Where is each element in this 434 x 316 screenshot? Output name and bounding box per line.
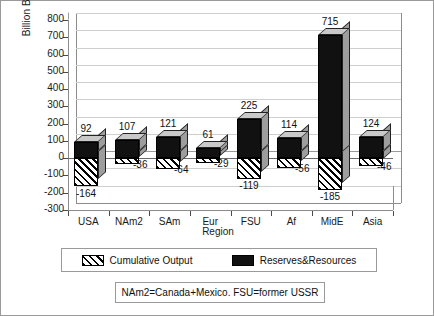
plot-back-right-edge bbox=[401, 13, 402, 203]
bar-front-positive-NAm2 bbox=[115, 140, 139, 158]
legend-item-reserves-resources: Reserves&Resources bbox=[232, 255, 357, 266]
plot-floor-back-edge bbox=[76, 203, 401, 204]
legend-swatch-hatched-icon bbox=[82, 255, 104, 266]
legend-swatch-solid-icon bbox=[232, 255, 254, 266]
chart-footnote: NAm2=Canada+Mexico. FSU=former USSR bbox=[115, 282, 325, 303]
chart-legend: Cumulative Output Reserves&Resources bbox=[61, 248, 377, 272]
y-tick-label--300: -300 bbox=[21, 205, 64, 213]
y-tick-label-400: 400 bbox=[21, 84, 64, 92]
gridline-400 bbox=[76, 82, 401, 83]
bar-front-positive-Af bbox=[277, 138, 301, 158]
bar-front-positive-Asia bbox=[359, 137, 383, 158]
bar-value-label-negative-FSU: -119 bbox=[225, 180, 273, 191]
y-tick-label-300: 300 bbox=[21, 101, 64, 109]
y-tick-label-100: 100 bbox=[21, 136, 64, 144]
y-axis-line bbox=[68, 20, 69, 210]
bar-front-positive-SAm bbox=[156, 137, 180, 158]
bar-value-label-negative-Asia: -46 bbox=[377, 161, 415, 172]
legend-label: Cumulative Output bbox=[110, 255, 193, 266]
bar-value-label-negative-USA: -164 bbox=[62, 188, 110, 199]
gridline-700 bbox=[76, 30, 401, 31]
y-tick-label-0: 0 bbox=[21, 153, 64, 161]
bar-front-positive-Eur bbox=[196, 148, 220, 159]
bar-value-label-negative-SAm: -64 bbox=[174, 164, 212, 175]
bar-value-label-positive-FSU: 225 bbox=[225, 100, 273, 111]
gridline-800 bbox=[76, 13, 401, 14]
bar-side-positive-MidE bbox=[342, 21, 350, 151]
bar-value-label-positive-MidE: 715 bbox=[306, 16, 354, 27]
y-tick-label-500: 500 bbox=[21, 67, 64, 75]
bar-front-negative-USA bbox=[74, 158, 98, 186]
plot-front-right-edge bbox=[393, 186, 394, 210]
legend-item-cumulative-output: Cumulative Output bbox=[82, 255, 193, 266]
legend-label: Reserves&Resources bbox=[260, 255, 357, 266]
bar-value-label-positive-SAm: 121 bbox=[144, 118, 192, 129]
bar-front-negative-MidE bbox=[318, 158, 342, 190]
gridline-500 bbox=[76, 65, 401, 66]
bar-value-label-positive-Af: 114 bbox=[265, 119, 313, 130]
bar-value-label-positive-Asia: 124 bbox=[347, 118, 395, 129]
y-tick-label-200: 200 bbox=[21, 119, 64, 127]
chart-figure: 8007006005004003002001000-100-200-30092-… bbox=[0, 0, 434, 316]
bar-front-positive-USA bbox=[74, 142, 98, 158]
gridline-600 bbox=[76, 48, 401, 49]
bar-front-positive-FSU bbox=[237, 119, 261, 158]
bar-front-negative-FSU bbox=[237, 158, 261, 179]
y-axis-title: Billion Barrels bbox=[21, 0, 32, 65]
bar-front-positive-MidE bbox=[318, 35, 342, 159]
bar-value-label-negative-MidE: -185 bbox=[306, 191, 354, 202]
x-axis-title: Region bbox=[1, 226, 434, 237]
y-tick-label--200: -200 bbox=[21, 188, 64, 196]
x-tickmark-end bbox=[393, 211, 394, 216]
bar-value-label-positive-Eur: 61 bbox=[184, 129, 232, 140]
y-tick-label--100: -100 bbox=[21, 170, 64, 178]
